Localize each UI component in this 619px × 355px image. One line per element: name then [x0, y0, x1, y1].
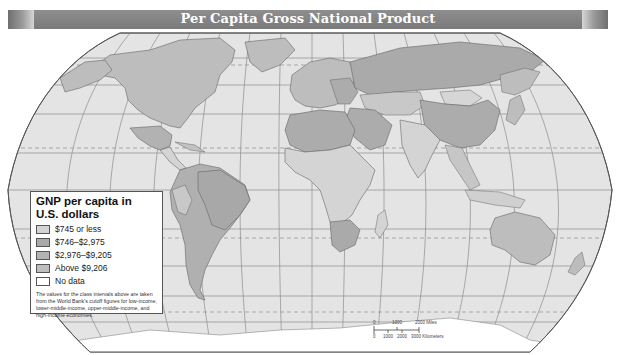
legend-swatch: [36, 277, 50, 286]
scale-km-2000: 2000: [397, 334, 407, 339]
legend-swatch: [36, 238, 50, 247]
legend-label: $745 or less: [55, 224, 101, 234]
legend-label: Above $9,206: [55, 263, 107, 273]
title-banner: Per Capita Gross National Product: [8, 10, 608, 29]
legend-title: GNP per capita in U.S. dollars: [36, 195, 157, 221]
scale-km-0: 0: [373, 334, 376, 339]
legend-item: Above $9,206: [36, 262, 157, 275]
scale-miles-0: 0: [373, 320, 376, 325]
scale-km-3000: 3000 Kilometers: [411, 334, 444, 339]
scale-miles-1000: 1000: [392, 320, 402, 325]
legend-title-line2: U.S. dollars: [36, 208, 157, 221]
legend-label: $746–$2,975: [55, 237, 105, 247]
legend-item: No data: [36, 275, 157, 288]
legend-note: The values for the class intervals above…: [36, 291, 157, 320]
legend-label: No data: [55, 276, 85, 286]
scale-bar: 0 1000 2000 Miles 0 1000 2000 3000 Kilom…: [371, 320, 481, 342]
legend-swatch: [36, 264, 50, 273]
region-north-africa: [285, 110, 355, 152]
scale-km-1000: 1000: [383, 334, 393, 339]
legend-swatch: [36, 225, 50, 234]
legend-swatch: [36, 251, 50, 260]
legend-title-line1: GNP per capita in: [36, 195, 157, 208]
legend-item: $2,976–$9,205: [36, 249, 157, 262]
legend-label: $2,976–$9,205: [55, 250, 112, 260]
legend-item: $745 or less: [36, 223, 157, 236]
legend-item: $746–$2,975: [36, 236, 157, 249]
legend: GNP per capita in U.S. dollars $745 or l…: [30, 191, 163, 314]
banner-right-cap: [582, 10, 608, 29]
map-title: Per Capita Gross National Product: [8, 11, 608, 26]
scale-miles-2000: 2000 Miles: [415, 320, 437, 325]
